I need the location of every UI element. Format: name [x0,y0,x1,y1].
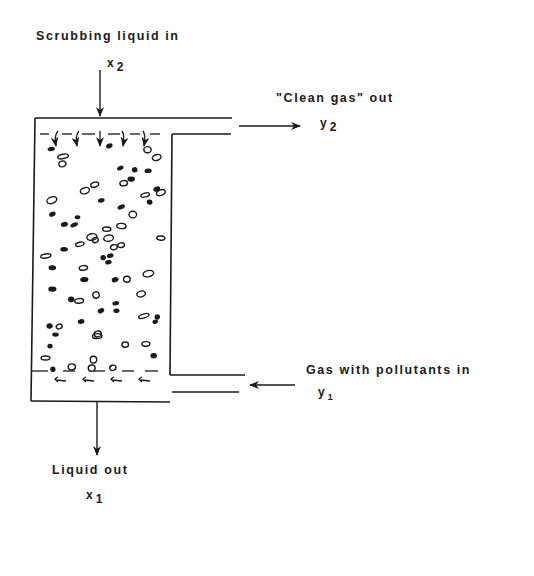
liquid-in-variable: x2 [107,56,123,70]
clean-gas-out-label: "Clean gas" out [276,91,394,105]
liquid-in-var-symbol: x [107,56,114,70]
liquid-distributor [40,131,160,146]
liquid-in-var-subscript: 2 [117,60,124,74]
packing-material [40,143,166,371]
liquid-out-label: Liquid out [52,463,128,477]
liquid-in-label: Scrubbing liquid in [36,29,180,43]
gas-in-variable: y1 [318,385,333,399]
gas-out-var-symbol: y [320,116,327,130]
clean-gas-out-variable: y2 [320,116,336,130]
gas-out-var-subscript: 2 [330,120,337,134]
gas-distributor [32,371,158,382]
liquid-out-var-symbol: x [86,488,93,502]
gas-in-var-symbol: y [318,385,325,399]
gas-in-var-subscript: 1 [328,392,333,402]
gas-in-label: Gas with pollutants in [306,363,471,377]
scrubber-diagram [0,0,534,576]
liquid-out-variable: x1 [86,488,102,502]
liquid-out-var-subscript: 1 [96,492,103,506]
